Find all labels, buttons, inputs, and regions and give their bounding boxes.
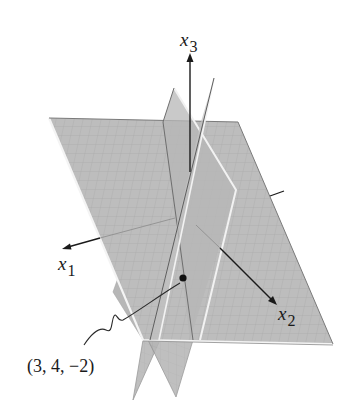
point-label: (3, 4, −2): [27, 356, 94, 377]
x1-axis-label: x1: [57, 253, 75, 279]
three-planes-diagram: x3 x1 x2 (3, 4, −2): [0, 0, 357, 414]
intersection-point: [179, 274, 186, 281]
x3-axis-label: x3: [179, 29, 197, 55]
plane-a-lower: [148, 340, 193, 397]
